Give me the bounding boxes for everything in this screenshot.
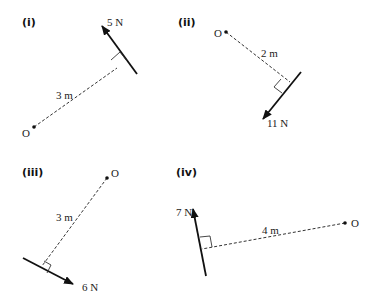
distance-line	[34, 68, 117, 127]
pivot-point	[224, 30, 228, 34]
diagram-iv: (iv) O 4 m 7 N	[176, 166, 359, 276]
distance-line	[42, 178, 107, 266]
moments-diagram-figure: (i) O 3 m 5 N (ii) O 2 m 11 N (iii) O 3 …	[0, 0, 375, 307]
force-label: 11 N	[267, 117, 288, 129]
pivot-label: O	[22, 127, 30, 139]
diagram-label: (iv)	[176, 166, 197, 179]
distance-label: 4 m	[262, 224, 279, 236]
force-arrow	[263, 72, 301, 119]
distance-label: 3 m	[56, 211, 73, 223]
force-label: 7 N	[176, 206, 192, 218]
distance-line	[226, 32, 290, 82]
diagram-ii: (ii) O 2 m 11 N	[178, 16, 301, 129]
pivot-point	[105, 176, 109, 180]
right-angle-marker	[274, 79, 282, 93]
pivot-label: O	[214, 27, 222, 39]
distance-label: 3 m	[56, 89, 73, 101]
pivot-point	[343, 221, 347, 225]
right-angle-marker	[200, 236, 212, 247]
diagram-label: (iii)	[22, 166, 43, 179]
pivot-label: O	[111, 167, 119, 179]
diagram-label: (ii)	[178, 16, 196, 29]
diagram-iii: (iii) O 3 m 6 N	[22, 166, 119, 293]
diagram-label: (i)	[22, 16, 36, 29]
diagram-i: (i) O 3 m 5 N	[22, 16, 137, 139]
distance-label: 2 m	[261, 47, 278, 59]
pivot-label: O	[351, 217, 359, 229]
pivot-point	[32, 125, 36, 129]
force-label: 5 N	[107, 16, 123, 28]
force-arrow	[102, 26, 137, 74]
force-label: 6 N	[82, 281, 98, 293]
force-arrow	[193, 209, 206, 276]
